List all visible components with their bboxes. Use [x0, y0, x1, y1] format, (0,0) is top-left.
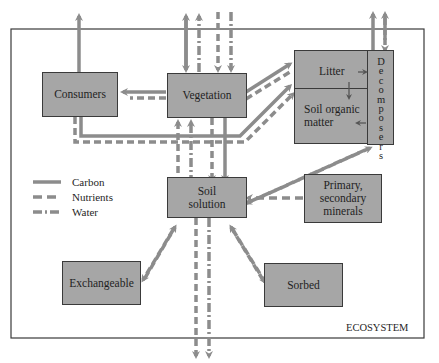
- consumers-label: Consumers: [54, 88, 106, 101]
- vegetation-box: Vegetation: [167, 73, 247, 118]
- litter-divider: [294, 88, 373, 89]
- primary-minerals-label-3: minerals: [323, 205, 363, 218]
- exchangeable-label: Exchangeable: [69, 277, 134, 290]
- consumers-box: Consumers: [42, 72, 118, 117]
- nutrient-cycle-diagram: Consumers Vegetation Litter Soil organic…: [0, 0, 439, 363]
- exchangeable-box: Exchangeable: [62, 261, 141, 305]
- decomposers-label: Decomposers: [376, 57, 386, 160]
- soil-solution-box: Soil solution: [167, 177, 247, 218]
- vegetation-label: Vegetation: [182, 89, 231, 102]
- legend-carbon: Carbon: [72, 176, 104, 188]
- ecosystem-label: ECOSYSTEM: [346, 322, 408, 334]
- sorbed-box: Sorbed: [264, 263, 343, 307]
- primary-minerals-label-2: secondary: [320, 192, 367, 205]
- soil-organic-label-2: matter: [304, 116, 333, 128]
- soil-solution-label-2: solution: [188, 198, 225, 211]
- soil-solution-label-1: Soil: [198, 185, 217, 198]
- litter-label: Litter: [319, 65, 345, 77]
- legend-nutrients: Nutrients: [72, 191, 113, 203]
- primary-minerals-box: Primary, secondary minerals: [304, 174, 382, 223]
- primary-minerals-label-1: Primary,: [323, 179, 362, 192]
- legend-water: Water: [72, 206, 98, 218]
- soil-organic-label-1: Soil organic: [304, 103, 360, 115]
- sorbed-label: Sorbed: [287, 279, 320, 292]
